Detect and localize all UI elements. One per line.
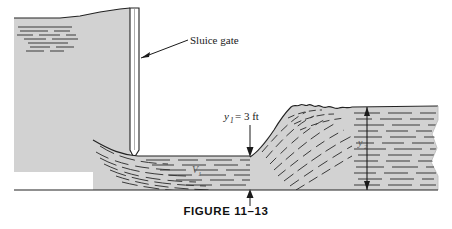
upstream-reservoir-water (14, 8, 130, 172)
sluice-gate-label: Sluice gate (190, 34, 239, 46)
sluice-gate-leader-line (141, 40, 188, 58)
sluice-gate-diagram: y 1 = 3 ft V 1 y 2 Sluice gate (0, 0, 452, 229)
depth-y1-arrow (247, 125, 254, 157)
y1-subscript: 1 (230, 116, 234, 125)
figure-caption: FIGURE 11–13 (0, 205, 452, 217)
hydraulic-jump-turbulent-crest (250, 104, 352, 190)
y2-subscript: 2 (364, 143, 368, 151)
depth-y1-label: y 1 = 3 ft (223, 110, 259, 125)
channel-bed-pointer-arrow (247, 189, 254, 206)
sluice-gate (130, 8, 139, 158)
figure-container: y 1 = 3 ft V 1 y 2 Sluice gate FIGURE 11… (0, 0, 452, 229)
y1-value: = 3 ft (235, 110, 259, 122)
y1-symbol: y (223, 110, 229, 122)
y2-symbol: y (357, 137, 363, 148)
v1-subscript: 1 (198, 170, 202, 178)
